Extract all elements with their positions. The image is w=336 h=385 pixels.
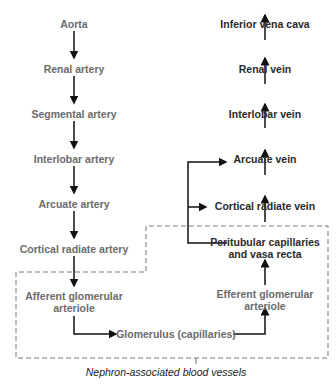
node-efferent-arteriole: Efferent glomerular arteriole [217,288,314,312]
node-afferent-arteriole: Afferent glomerular arteriole [25,290,122,314]
node-arcuate-artery: Arcuate artery [38,198,109,210]
node-glomerulus: Glomerulus (capillaries) [116,328,236,340]
node-segmental-artery: Segmental artery [31,108,116,120]
node-cortical-radiate-artery: Cortical radiate artery [20,243,129,255]
node-interlobar-artery: Interlobar artery [34,153,115,165]
node-inferior-vena-cava: Inferior vena cava [220,18,309,30]
node-renal-vein: Renal vein [239,63,292,75]
node-arcuate-vein: Arcuate vein [233,153,296,165]
node-interlobar-vein: Interlobar vein [229,108,301,120]
node-cortical-radiate-vein: Cortical radiate vein [215,200,315,212]
node-peritubular-capillaries: Peritubular capillaries and vasa recta [210,236,320,260]
nephron-caption: Nephron-associated blood vessels [86,366,247,378]
node-aorta: Aorta [60,18,87,30]
node-renal-artery: Renal artery [44,63,105,75]
